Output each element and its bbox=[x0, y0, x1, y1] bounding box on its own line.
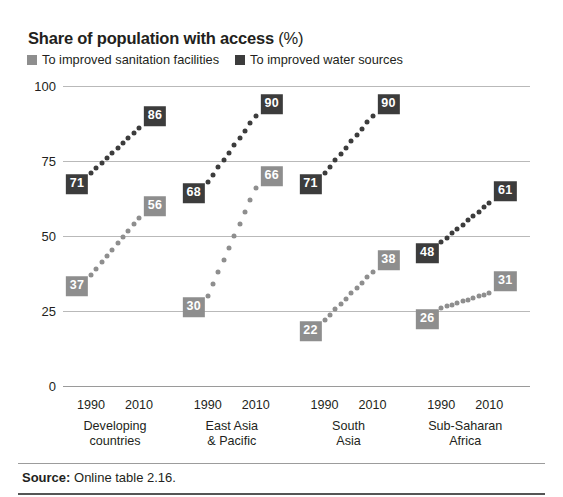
data-point-marker bbox=[476, 209, 481, 214]
x-group-label-line: Sub-Saharan bbox=[428, 419, 502, 434]
data-point-marker bbox=[121, 235, 126, 240]
data-point-marker bbox=[444, 235, 449, 240]
gridline-25 bbox=[63, 311, 530, 312]
x-group-label: Developingcountries bbox=[83, 419, 146, 449]
data-point-marker bbox=[471, 214, 476, 219]
data-point-marker bbox=[205, 294, 210, 299]
value-label: 90 bbox=[377, 94, 399, 114]
value-label: 61 bbox=[494, 181, 516, 201]
data-point-marker bbox=[343, 145, 348, 150]
value-label: 71 bbox=[66, 174, 88, 194]
data-point-marker bbox=[126, 136, 131, 141]
data-point-marker bbox=[349, 139, 354, 144]
data-point-marker bbox=[227, 150, 232, 155]
data-point-marker bbox=[216, 270, 221, 275]
gridline-50 bbox=[63, 236, 530, 237]
data-point-marker bbox=[349, 291, 354, 296]
source-text: Online table 2.16. bbox=[74, 470, 176, 485]
gridline-100 bbox=[63, 86, 530, 87]
data-point-marker bbox=[221, 258, 226, 263]
data-point-marker bbox=[121, 141, 126, 146]
source-note: Source: Online table 2.16. bbox=[22, 470, 176, 486]
data-point-marker bbox=[354, 286, 359, 291]
data-point-marker bbox=[253, 186, 258, 191]
value-label: 26 bbox=[416, 309, 438, 329]
data-point-marker bbox=[359, 126, 364, 131]
data-point-marker bbox=[110, 247, 115, 252]
x-group-label-line: Asia bbox=[332, 434, 365, 449]
value-label: 66 bbox=[261, 166, 283, 186]
bottom-divider bbox=[18, 493, 545, 495]
data-point-marker bbox=[211, 282, 216, 287]
data-point-marker bbox=[327, 164, 332, 169]
data-point-marker bbox=[444, 304, 449, 309]
data-point-marker bbox=[322, 318, 327, 323]
chart-plot-wrapper: 0255075100 37567186306668902238719026314… bbox=[0, 0, 563, 497]
data-point-marker bbox=[253, 114, 258, 119]
y-axis-labels: 0255075100 bbox=[8, 86, 56, 386]
x-tick-label: 1990 bbox=[77, 398, 105, 412]
data-point-marker bbox=[338, 302, 343, 307]
data-point-marker bbox=[131, 131, 136, 136]
y-tick-label-0: 0 bbox=[10, 380, 56, 393]
data-point-marker bbox=[343, 296, 348, 301]
data-point-marker bbox=[471, 296, 476, 301]
source-label: Source: bbox=[22, 470, 70, 485]
data-point-marker bbox=[205, 180, 210, 185]
data-point-marker bbox=[105, 254, 110, 259]
x-group-label-line: East Asia bbox=[205, 419, 258, 434]
data-point-marker bbox=[232, 234, 237, 239]
data-point-marker bbox=[94, 266, 99, 271]
data-point-marker bbox=[481, 292, 486, 297]
plot-area: 37567186306668902238719026314861 bbox=[63, 86, 530, 386]
data-point-marker bbox=[248, 121, 253, 126]
x-group-label: Sub-SaharanAfrica bbox=[428, 419, 502, 449]
value-label: 90 bbox=[261, 94, 283, 114]
data-point-marker bbox=[460, 299, 465, 304]
x-tick-label: 2010 bbox=[242, 398, 270, 412]
x-tick-label: 2010 bbox=[125, 398, 153, 412]
data-point-marker bbox=[216, 165, 221, 170]
y-tick-label-50: 50 bbox=[10, 230, 56, 243]
data-point-marker bbox=[370, 270, 375, 275]
data-point-marker bbox=[243, 210, 248, 215]
data-point-marker bbox=[99, 161, 104, 166]
data-point-marker bbox=[370, 114, 375, 119]
x-tick-label: 2010 bbox=[475, 398, 503, 412]
data-point-marker bbox=[237, 222, 242, 227]
data-point-marker bbox=[338, 152, 343, 157]
data-point-marker bbox=[465, 297, 470, 302]
data-point-marker bbox=[89, 171, 94, 176]
data-point-marker bbox=[354, 133, 359, 138]
x-group-label-line: Africa bbox=[428, 434, 502, 449]
x-tick-label: 1990 bbox=[310, 398, 338, 412]
value-label: 48 bbox=[416, 243, 438, 263]
data-point-marker bbox=[115, 146, 120, 151]
x-tick-label: 1990 bbox=[427, 398, 455, 412]
data-point-marker bbox=[333, 307, 338, 312]
data-point-marker bbox=[131, 222, 136, 227]
source-divider bbox=[18, 463, 545, 464]
y-tick-label-75: 75 bbox=[10, 155, 56, 168]
x-group-label: East Asia& Pacific bbox=[205, 419, 258, 449]
data-point-marker bbox=[115, 241, 120, 246]
data-point-marker bbox=[137, 216, 142, 221]
data-point-marker bbox=[211, 172, 216, 177]
data-point-marker bbox=[460, 222, 465, 227]
x-tick-label: 2010 bbox=[358, 398, 386, 412]
data-point-marker bbox=[221, 158, 226, 163]
data-point-marker bbox=[126, 228, 131, 233]
value-label: 68 bbox=[183, 183, 205, 203]
value-label: 71 bbox=[299, 174, 321, 194]
data-point-marker bbox=[333, 158, 338, 163]
data-point-marker bbox=[481, 205, 486, 210]
value-label: 38 bbox=[377, 250, 399, 270]
data-point-marker bbox=[137, 126, 142, 131]
data-point-marker bbox=[455, 227, 460, 232]
data-point-marker bbox=[359, 280, 364, 285]
data-point-marker bbox=[232, 143, 237, 148]
data-point-marker bbox=[248, 198, 253, 203]
value-label: 31 bbox=[494, 271, 516, 291]
x-group-label-line: countries bbox=[83, 434, 146, 449]
x-tick-label: 1990 bbox=[194, 398, 222, 412]
